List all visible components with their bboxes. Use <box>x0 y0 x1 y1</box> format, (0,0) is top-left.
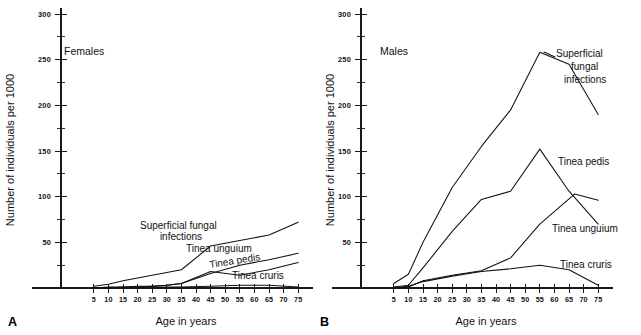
label-superficial-fungal-infections-b-line3: infections <box>564 74 606 85</box>
panel-b-males: 50 100 150 200 250 300 <box>320 0 640 335</box>
svg-text:10: 10 <box>404 295 412 304</box>
svg-text:250: 250 <box>338 55 351 64</box>
figure-container: 50 100 150 200 250 300 <box>0 0 641 335</box>
panel-letter-b: B <box>320 315 329 329</box>
svg-text:40: 40 <box>192 295 200 304</box>
panel-b-sex-label: Males <box>380 45 408 57</box>
series-line-tinea-unguium <box>394 194 598 288</box>
svg-text:40: 40 <box>492 295 500 304</box>
svg-text:5: 5 <box>392 295 396 304</box>
series-group-b <box>394 52 598 288</box>
label-tinea-pedis-b: Tinea pedis <box>558 156 609 167</box>
svg-text:35: 35 <box>477 295 485 304</box>
svg-text:50: 50 <box>342 238 351 247</box>
svg-text:300: 300 <box>338 10 351 19</box>
svg-text:65: 65 <box>265 295 273 304</box>
svg-text:60: 60 <box>250 295 258 304</box>
svg-text:25: 25 <box>148 295 156 304</box>
svg-text:50: 50 <box>221 295 229 304</box>
svg-text:200: 200 <box>338 101 351 110</box>
svg-text:20: 20 <box>133 295 141 304</box>
svg-text:100: 100 <box>38 192 51 201</box>
panel-a-sex-label: Females <box>64 45 104 57</box>
svg-text:55: 55 <box>536 295 544 304</box>
label-tinea-cruris-b: Tinea cruris <box>560 259 612 270</box>
svg-text:10: 10 <box>104 295 112 304</box>
svg-text:45: 45 <box>206 295 214 304</box>
panel-b-plot: 50 100 150 200 250 300 <box>320 0 641 335</box>
x-axis-title-b: Age in years <box>455 315 517 327</box>
svg-text:20: 20 <box>433 295 441 304</box>
svg-text:45: 45 <box>506 295 514 304</box>
svg-text:65: 65 <box>565 295 573 304</box>
svg-text:60: 60 <box>550 295 558 304</box>
svg-text:5: 5 <box>92 295 96 304</box>
panel-a-plot: 50 100 150 200 250 300 <box>0 0 320 335</box>
svg-text:200: 200 <box>38 101 51 110</box>
svg-text:300: 300 <box>38 10 51 19</box>
svg-text:150: 150 <box>338 147 351 156</box>
svg-text:70: 70 <box>579 295 587 304</box>
y-axis-title-b: Number of individuals per 1000 <box>324 74 336 226</box>
svg-text:15: 15 <box>119 295 127 304</box>
svg-text:15: 15 <box>419 295 427 304</box>
svg-text:100: 100 <box>338 192 351 201</box>
panel-letter-a: A <box>8 315 17 329</box>
svg-text:75: 75 <box>294 295 302 304</box>
svg-text:250: 250 <box>38 55 51 64</box>
svg-text:75: 75 <box>594 295 602 304</box>
svg-text:50: 50 <box>521 295 529 304</box>
label-superficial-fungal-infections-a-line1: Superficial fungal <box>140 220 217 231</box>
y-axis-tick-labels-a: 50 100 150 200 250 300 <box>38 10 51 247</box>
x-axis-tick-labels-b: 5 10 15 20 25 30 35 40 45 50 55 60 65 70… <box>392 295 603 304</box>
label-tinea-cruris-a: Tinea cruris <box>232 270 284 281</box>
label-tinea-unguium-b: Tinea unguium <box>552 223 618 234</box>
panel-a-females: 50 100 150 200 250 300 <box>0 0 320 335</box>
x-axis-tick-labels-a: 5 10 15 20 25 30 35 40 45 50 55 60 65 70… <box>92 295 303 304</box>
svg-text:30: 30 <box>463 295 471 304</box>
y-axis-tick-labels-b: 50 100 150 200 250 300 <box>338 10 351 247</box>
label-superficial-fungal-infections-a-line2: infections <box>160 231 202 242</box>
svg-text:70: 70 <box>279 295 287 304</box>
series-line-superficial-fungal-infections <box>394 52 598 283</box>
svg-text:55: 55 <box>236 295 244 304</box>
y-axis-title-a: Number of individuals per 1000 <box>4 74 16 226</box>
label-superficial-fungal-infections-b-line1: Superficial <box>556 48 603 59</box>
svg-text:25: 25 <box>448 295 456 304</box>
svg-text:35: 35 <box>177 295 185 304</box>
svg-text:150: 150 <box>38 147 51 156</box>
label-superficial-fungal-infections-b-line2: fungal <box>571 61 598 72</box>
label-tinea-unguium-a: Tinea unguium <box>186 243 252 254</box>
svg-text:30: 30 <box>163 295 171 304</box>
svg-text:50: 50 <box>42 238 51 247</box>
x-axis-title-a: Age in years <box>155 315 217 327</box>
